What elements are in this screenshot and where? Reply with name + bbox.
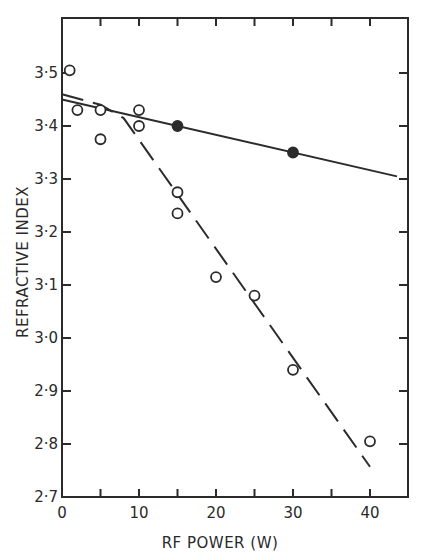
y-tick-label: 3·4	[34, 117, 58, 135]
fit-lines	[62, 94, 397, 467]
y-tick-labels: 2·72·82·93·03·13·23·33·43·5	[34, 64, 58, 506]
y-tick-label: 3·5	[34, 64, 58, 82]
y-axis-title: REFRACTIVE INDEX	[14, 186, 32, 338]
open-circle-point	[173, 208, 183, 218]
y-tick-label: 2·8	[34, 435, 58, 453]
x-tick-labels: 010203040	[57, 504, 379, 522]
y-tick-label: 2·7	[34, 488, 58, 506]
open-circle-point	[96, 134, 106, 144]
open-circle-point	[365, 436, 375, 446]
y-tick-label: 3·2	[34, 223, 58, 241]
filled-circle-point	[288, 148, 298, 158]
open-circle-point	[65, 65, 75, 75]
open-circle-point	[250, 291, 260, 301]
x-tick-label: 30	[283, 504, 302, 522]
y-tick-label: 2·9	[34, 382, 58, 400]
open-circle-point	[134, 121, 144, 131]
y-tick-label: 3·0	[34, 329, 58, 347]
x-tick-label: 40	[360, 504, 379, 522]
axis-ticks	[62, 18, 408, 497]
x-tick-label: 20	[206, 504, 225, 522]
x-tick-label: 10	[129, 504, 148, 522]
refractive-index-chart: 010203040 2·72·82·93·03·13·23·33·43·5 RF…	[0, 0, 421, 555]
plot-frame	[62, 18, 408, 497]
open-circle-point	[173, 187, 183, 197]
open-circle-point	[288, 365, 298, 375]
x-tick-label: 0	[57, 504, 67, 522]
open-circle-point	[96, 105, 106, 115]
open-circle-point	[72, 105, 82, 115]
y-tick-label: 3·3	[34, 170, 58, 188]
open-circle-point	[211, 272, 221, 282]
y-tick-label: 3·1	[34, 276, 58, 294]
x-axis-title: RF POWER (W)	[162, 534, 279, 552]
filled-circle-point	[173, 121, 183, 131]
open-circle-point	[134, 105, 144, 115]
plot-border	[62, 18, 408, 497]
